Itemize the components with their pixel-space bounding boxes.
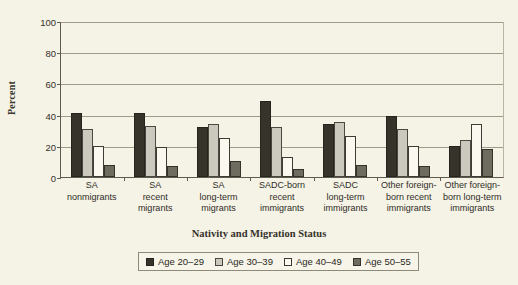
- bar: [460, 140, 471, 177]
- bar: [323, 124, 334, 177]
- bar: [271, 127, 282, 177]
- legend-item: Age 40–49: [284, 256, 342, 267]
- bar: [208, 124, 219, 177]
- y-axis-tick-label: 80: [45, 48, 56, 59]
- bar: [82, 129, 93, 177]
- bar: [397, 129, 408, 177]
- bar-group: [250, 23, 313, 177]
- bar: [156, 147, 167, 177]
- bar: [145, 126, 156, 177]
- bar: [408, 146, 419, 177]
- y-axis-tick-label: 20: [45, 141, 56, 152]
- legend-label: Age 40–49: [296, 256, 342, 267]
- bar: [345, 136, 356, 177]
- bar-group: [377, 23, 440, 177]
- legend-swatch-icon: [215, 258, 223, 266]
- x-axis-tick-labels: SAnonmigrantsSArecentmigrantsSAlong-term…: [60, 180, 504, 215]
- bar: [356, 165, 367, 177]
- legend-swatch-icon: [353, 258, 361, 266]
- y-axis-title: Percent: [6, 63, 17, 133]
- bar: [386, 116, 397, 177]
- x-axis-category-label: Other foreign-born recentimmigrants: [377, 180, 440, 215]
- bar: [471, 124, 482, 177]
- bar-chart-figure: Percent 020406080100 SAnonmigrantsSArece…: [0, 0, 518, 285]
- legend-swatch-icon: [146, 258, 154, 266]
- legend-label: Age 50–55: [365, 256, 411, 267]
- bar: [282, 157, 293, 177]
- bar: [219, 138, 230, 177]
- legend-label: Age 20–29: [158, 256, 204, 267]
- y-axis-tick-label: 60: [45, 79, 56, 90]
- bar-group: [124, 23, 187, 177]
- bar: [230, 161, 241, 177]
- legend-label: Age 30–39: [227, 256, 273, 267]
- legend-item: Age 30–39: [215, 256, 273, 267]
- bar-group: [440, 23, 503, 177]
- x-axis-category-label: SAlong-termmigrants: [187, 180, 250, 215]
- x-axis-category-label: SADC-bornrecentimmigrants: [250, 180, 313, 215]
- x-axis-category-label: SADClong-termimmigrants: [314, 180, 377, 215]
- bar: [419, 166, 430, 177]
- y-axis-tick-label: 100: [40, 17, 56, 28]
- bar: [134, 113, 145, 177]
- bar: [93, 146, 104, 177]
- bar: [482, 149, 493, 177]
- legend-item: Age 50–55: [353, 256, 411, 267]
- bar-group: [187, 23, 250, 177]
- bar: [71, 113, 82, 177]
- bar: [104, 165, 115, 177]
- chart-legend: Age 20–29Age 30–39Age 40–49Age 50–55: [138, 252, 419, 271]
- legend-swatch-icon: [284, 258, 292, 266]
- x-axis-category-label: Other foreign-born long-termimmigrants: [441, 180, 504, 215]
- legend-item: Age 20–29: [146, 256, 204, 267]
- bar: [197, 127, 208, 177]
- bar: [260, 101, 271, 177]
- y-axis-tick-mark: [57, 178, 61, 179]
- x-axis-category-label: SArecentmigrants: [123, 180, 186, 215]
- bar-groups: [61, 23, 503, 177]
- bar: [334, 122, 345, 177]
- y-axis-tick-label: 0: [51, 173, 56, 184]
- x-axis-title: Nativity and Migration Status: [0, 228, 518, 239]
- bar-group: [314, 23, 377, 177]
- plot-area: 020406080100: [60, 22, 504, 178]
- x-axis-category-label: SAnonmigrants: [60, 180, 123, 215]
- bar: [167, 166, 178, 177]
- bar-group: [61, 23, 124, 177]
- bar: [293, 169, 304, 177]
- bar: [449, 146, 460, 177]
- y-axis-tick-label: 40: [45, 110, 56, 121]
